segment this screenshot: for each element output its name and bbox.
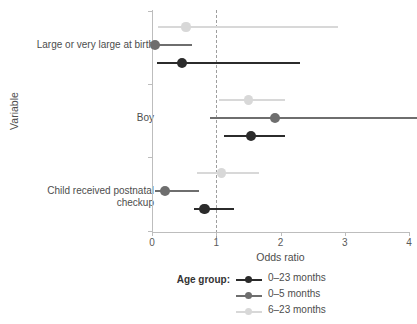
estimate-point [160, 186, 170, 196]
estimate-point [246, 131, 256, 141]
estimate-point [181, 22, 190, 31]
legend-item-label: 0–5 months [268, 288, 320, 299]
legend-key-dot [245, 276, 252, 283]
x-axis-tick-mark [409, 232, 410, 236]
legend-key-dot [245, 308, 252, 315]
y-axis-tick [148, 84, 152, 85]
y-axis-tick [148, 157, 152, 158]
x-axis-tick-label: 3 [330, 237, 360, 248]
x-axis-tick-label: 4 [394, 237, 417, 248]
legend-key-dot [245, 292, 252, 299]
x-axis-title: Odds ratio [152, 251, 409, 263]
x-axis-tick-mark [152, 232, 153, 236]
legend-item-label: 0–23 months [268, 272, 326, 283]
x-axis-tick-mark [216, 232, 217, 236]
x-axis-tick-label: 0 [137, 237, 167, 248]
estimate-point [217, 168, 226, 177]
x-axis-tick-mark [345, 232, 346, 236]
y-axis-title: Variable [8, 61, 20, 161]
y-category-label-postnatal-checkup: Child received postnatal checkup [9, 185, 154, 209]
x-axis-tick-label: 1 [201, 237, 231, 248]
estimate-point [177, 58, 187, 68]
estimate-point [199, 204, 209, 214]
y-category-label-boy: Boy [9, 112, 154, 124]
x-axis-tick-label: 2 [266, 237, 296, 248]
x-axis-tick-mark [281, 232, 282, 236]
confidence-interval-line [155, 44, 193, 46]
confidence-interval-line [210, 117, 417, 119]
forest-plot-figure: Variable Large or very large at birth Bo… [0, 0, 417, 324]
legend-item-label: 6–23 months [268, 304, 326, 315]
estimate-point [244, 95, 253, 104]
reference-line-or-1 [216, 10, 217, 238]
legend-title: Age group: [140, 274, 230, 285]
y-category-label-large-at-birth: Large or very large at birth [9, 39, 154, 51]
estimate-point [270, 113, 280, 123]
y-axis-tick [148, 11, 152, 12]
estimate-point [150, 40, 160, 50]
confidence-interval-line [197, 172, 259, 174]
